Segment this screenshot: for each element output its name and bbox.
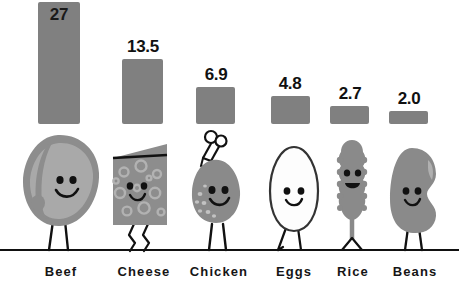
chart-canvas: 27 13.5 6.9 4.8 2.7 2.0 [0, 0, 459, 296]
category-label-beef: Beef [19, 265, 103, 278]
bar-chicken [196, 87, 235, 124]
bean-icon [384, 144, 446, 253]
category-label-chicken: Chicken [177, 265, 261, 278]
bar-value-beef: 27 [38, 6, 80, 23]
category-label-cheese: Cheese [102, 265, 186, 278]
cheese-icon [108, 140, 180, 253]
bar-value-chicken: 6.9 [190, 66, 242, 83]
steak-icon [20, 133, 102, 253]
bar-value-cheese: 13.5 [112, 38, 174, 55]
egg-icon [262, 143, 326, 253]
bar-rice [330, 106, 369, 124]
rice-stalk-icon [327, 138, 379, 253]
bar-value-beans: 2.0 [383, 90, 435, 107]
bar-value-rice: 2.7 [324, 85, 376, 102]
category-label-beans: Beans [373, 265, 457, 278]
drumstick-icon [183, 128, 255, 253]
bar-value-eggs: 4.8 [264, 75, 316, 92]
ground-line [0, 249, 459, 251]
bar-beans [389, 111, 428, 124]
bar-cheese [122, 59, 163, 124]
bar-eggs [271, 96, 310, 124]
